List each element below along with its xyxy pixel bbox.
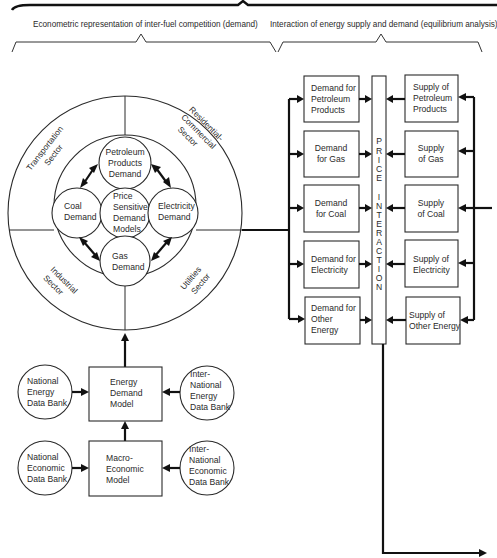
svg-text:National: National — [27, 376, 59, 386]
svg-text:Petroleum: Petroleum — [105, 147, 144, 157]
price-output-line — [383, 344, 480, 553]
svg-text:Other Energy: Other Energy — [409, 321, 461, 331]
svg-text:Electricity: Electricity — [413, 265, 450, 275]
svg-text:Model: Model — [106, 475, 129, 485]
header-demand: Econometric representation of inter-fuel… — [33, 20, 258, 29]
international-energy-data-bank: Inter- National Energy Data Bank — [180, 366, 234, 420]
supply-box-petroleum: Supply of Petroleum Products — [405, 75, 458, 122]
svg-text:Coal: Coal — [64, 201, 82, 211]
svg-text:Gas: Gas — [112, 251, 128, 261]
svg-text:Other: Other — [311, 314, 333, 324]
svg-text:Demand: Demand — [113, 213, 146, 223]
svg-text:Demand: Demand — [64, 212, 97, 222]
energy-demand-model-box: Energy Demand Model — [89, 367, 162, 421]
svg-text:of Coal: of Coal — [417, 209, 444, 219]
supply-box-electricity: Supply of Electricity — [405, 240, 458, 287]
arrows-demand-to-price — [359, 95, 372, 324]
svg-text:Demand: Demand — [315, 198, 348, 208]
svg-text:Inter-: Inter- — [190, 369, 210, 379]
macro-economic-model-box: Macro- Economic Model — [89, 441, 162, 496]
svg-text:Economic: Economic — [27, 463, 65, 473]
svg-text:Petroleum: Petroleum — [413, 93, 452, 103]
svg-text:N: N — [376, 282, 382, 292]
left-brace — [12, 34, 276, 52]
circle-coal-demand: Coal Demand — [52, 188, 102, 238]
svg-text:of Gas: of Gas — [418, 154, 443, 164]
circle-petroleum-products-demand: Petroleum Products Demand — [99, 137, 151, 189]
circle-gas-demand: Gas Demand — [100, 236, 150, 286]
price-output-arrowhead — [479, 549, 487, 557]
svg-text:Macro-: Macro- — [106, 453, 133, 463]
svg-text:Price: Price — [113, 191, 133, 201]
svg-text:National: National — [27, 452, 59, 462]
svg-text:Energy: Energy — [190, 391, 218, 401]
international-economic-data-bank: Inter- National Economic Data Bank — [180, 441, 234, 495]
svg-text:Demand for: Demand for — [311, 303, 356, 313]
svg-text:Demand: Demand — [158, 212, 191, 222]
svg-text:Products: Products — [413, 104, 447, 114]
right-brace — [278, 34, 482, 52]
svg-text:Demand: Demand — [110, 388, 143, 398]
svg-text:Supply of: Supply of — [413, 254, 449, 264]
svg-text:Sensitive: Sensitive — [113, 202, 148, 212]
svg-text:Products: Products — [108, 158, 142, 168]
svg-text:Model: Model — [110, 399, 133, 409]
circle-price-sensitive-demand-models: Price Sensitive Demand Models — [100, 188, 150, 238]
supply-box-coal: Supply of Coal — [405, 185, 458, 232]
svg-text:Data Bank: Data Bank — [190, 402, 231, 412]
svg-text:Data Bank: Data Bank — [189, 477, 230, 487]
svg-text:Products: Products — [311, 105, 345, 115]
arrowhead-up-to-circle — [121, 333, 129, 341]
arrowhead-up-to-edm — [121, 421, 129, 429]
energy-model-diagram: Econometric representation of inter-fuel… — [0, 0, 497, 558]
arrow-international-economic — [162, 464, 180, 472]
demand-box-electricity: Demand for Electricity — [304, 241, 359, 288]
svg-text:Supply: Supply — [418, 198, 445, 208]
svg-text:Data Bank: Data Bank — [27, 474, 68, 484]
svg-text:National: National — [190, 380, 222, 390]
circle-electricity-demand: Electricity Demand — [148, 188, 198, 238]
demand-box-coal: Demand for Coal — [304, 185, 359, 232]
national-energy-data-bank: National Energy Data Bank — [18, 365, 72, 419]
svg-text:Electricity: Electricity — [311, 265, 348, 275]
svg-text:P: P — [376, 136, 382, 146]
svg-text:Energy: Energy — [110, 377, 138, 387]
svg-text:National: National — [189, 455, 221, 465]
svg-text:Inter-: Inter- — [189, 444, 209, 454]
svg-text:Economic: Economic — [106, 464, 144, 474]
svg-text:Energy: Energy — [27, 387, 55, 397]
arrows-bus-to-supply — [458, 93, 474, 324]
arrow-national-energy — [72, 388, 89, 396]
svg-text:Models: Models — [113, 224, 141, 234]
svg-text:Supply of: Supply of — [413, 82, 449, 92]
svg-text:Demand: Demand — [109, 169, 142, 179]
arrow-national-economic — [72, 464, 89, 472]
svg-text:Demand for: Demand for — [311, 254, 356, 264]
arrow-international-energy — [162, 388, 180, 396]
svg-text:Data Bank: Data Bank — [27, 398, 68, 408]
svg-text:Electricity: Electricity — [158, 201, 195, 211]
svg-text:for Gas: for Gas — [317, 154, 345, 164]
svg-text:E: E — [376, 173, 382, 183]
svg-text:for Coal: for Coal — [316, 209, 346, 219]
arrows-bus-to-demand — [289, 95, 305, 323]
demand-box-other-energy: Demand for Other Energy — [305, 297, 360, 344]
svg-text:Demand: Demand — [112, 262, 145, 272]
svg-text:Economic: Economic — [189, 466, 227, 476]
supply-box-gas: Supply of Gas — [405, 131, 458, 177]
svg-text:Demand for: Demand for — [311, 83, 356, 93]
svg-text:Petroleum: Petroleum — [311, 94, 350, 104]
header-equilibrium: Interaction of energy supply and demand … — [270, 20, 497, 29]
svg-text:Supply: Supply — [418, 143, 445, 153]
arrows-supply-to-price — [386, 95, 406, 324]
demand-box-gas: Demand for Gas — [304, 131, 359, 177]
national-economic-data-bank: National Economic Data Bank — [18, 441, 72, 495]
svg-text:Supply of: Supply of — [409, 310, 445, 320]
demand-box-petroleum: Demand for Petroleum Products — [304, 76, 359, 122]
svg-text:Energy: Energy — [311, 325, 339, 335]
svg-text:Demand: Demand — [315, 143, 348, 153]
supply-box-other-energy: Supply of Other Energy — [406, 297, 461, 344]
top-brace — [12, 1, 497, 10]
